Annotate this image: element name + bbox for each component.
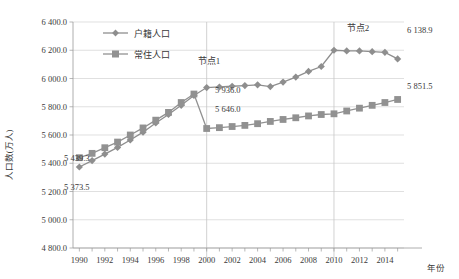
data-point-diamond: [292, 73, 299, 80]
y-axis-title: 人口数(万人): [4, 130, 14, 181]
data-point-square: [241, 122, 248, 129]
data-point-square: [382, 99, 389, 106]
y-tick-label: 5 800.0: [42, 102, 68, 112]
data-point-square: [254, 120, 261, 127]
y-tick-label: 6 000.0: [42, 74, 68, 84]
legend-item-huji[interactable]: 户籍人口: [103, 28, 170, 39]
data-point-square: [369, 102, 376, 109]
x-tick-label: 2002: [224, 255, 241, 265]
data-point-square: [178, 99, 185, 106]
data-point-diamond: [76, 163, 83, 170]
legend: 户籍人口 常住人口: [103, 28, 170, 60]
data-point-diamond: [279, 78, 286, 85]
x-tick-label: 1996: [147, 255, 164, 265]
data-point-square: [305, 113, 312, 120]
data-point-diamond: [267, 83, 274, 90]
data-point-square: [165, 109, 172, 116]
data-point-square: [318, 111, 325, 118]
population-line-chart: 6 400.06 200.06 000.05 800.05 600.05 400…: [0, 0, 459, 279]
x-tick-marks: [79, 248, 397, 252]
y-tick-label: 5 000.0: [42, 215, 68, 225]
value-label-node1-changzhu: 5 646.0: [215, 104, 241, 114]
data-point-square: [216, 124, 223, 131]
value-label-end-huji: 6 138.9: [407, 25, 433, 35]
annotations: 节点1 节点2 5 439.3 5 373.5 5 936.0 5 646.0 …: [64, 23, 433, 192]
legend-label-changzhu: 常住人口: [134, 49, 170, 60]
data-point-diamond: [369, 48, 376, 55]
x-tick-label: 1994: [122, 255, 140, 265]
data-point-square: [203, 125, 210, 132]
x-tick-label: 2004: [249, 255, 267, 265]
value-label-start-huji: 5 373.5: [64, 182, 90, 192]
data-point-diamond: [305, 68, 312, 75]
node-vertical-lines: [207, 22, 334, 258]
y-tick-label: 4 800.0: [42, 243, 68, 253]
data-point-square: [191, 91, 198, 98]
data-point-square: [267, 118, 274, 125]
chart-canvas: 6 400.06 200.06 000.05 800.05 600.05 400…: [0, 0, 459, 279]
x-tick-label: 1998: [173, 255, 190, 265]
x-tick-label: 1990: [71, 255, 88, 265]
x-tick-labels: 1990199219941996199820002002200420062008…: [71, 255, 394, 265]
data-point-square: [343, 108, 350, 115]
x-axis-title: 年份: [427, 263, 445, 273]
data-point-diamond: [394, 55, 401, 62]
value-label-start-changzhu: 5 439.3: [64, 153, 90, 163]
data-point-square: [152, 117, 159, 124]
data-point-square: [114, 139, 121, 146]
annotation-node1: 节点1: [198, 56, 221, 66]
y-tick-label: 5 600.0: [42, 130, 68, 140]
gridlines: [73, 22, 404, 248]
square-marker-icon: [112, 51, 119, 58]
y-tick-label: 6 400.0: [42, 17, 68, 27]
y-tick-label: 6 200.0: [42, 45, 68, 55]
data-point-square: [229, 123, 236, 130]
x-tick-label: 2014: [376, 255, 394, 265]
x-tick-label: 2000: [198, 255, 215, 265]
y-tick-marks: [70, 22, 74, 248]
x-tick-label: 2012: [351, 255, 368, 265]
data-point-square: [331, 110, 338, 117]
y-tick-labels: 6 400.06 200.06 000.05 800.05 600.05 400…: [42, 17, 68, 253]
data-point-diamond: [101, 150, 108, 157]
data-point-square: [280, 116, 287, 123]
x-tick-label: 2006: [275, 255, 292, 265]
data-point-square: [89, 150, 96, 157]
value-label-end-changzhu: 5 851.5: [407, 81, 433, 91]
data-point-diamond: [254, 81, 261, 88]
data-point-square: [101, 144, 108, 151]
data-point-square: [140, 125, 147, 132]
legend-label-huji: 户籍人口: [134, 28, 170, 39]
data-point-diamond: [241, 82, 248, 89]
data-point-diamond: [343, 47, 350, 54]
data-point-square: [292, 114, 299, 121]
data-point-diamond: [203, 84, 210, 91]
x-tick-label: 2010: [325, 255, 342, 265]
series-changzhu: [76, 91, 401, 161]
data-point-square: [356, 105, 363, 112]
data-point-diamond: [381, 49, 388, 56]
data-point-square: [394, 96, 401, 103]
diamond-marker-icon: [112, 30, 119, 37]
data-point-square: [127, 132, 134, 139]
value-label-node1-huji: 5 936.0: [215, 85, 241, 95]
annotation-node2: 节点2: [347, 23, 370, 33]
x-tick-label: 1992: [96, 255, 113, 265]
data-point-diamond: [356, 47, 363, 54]
x-tick-label: 2008: [300, 255, 317, 265]
